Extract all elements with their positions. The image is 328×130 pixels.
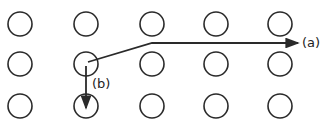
trajectories: (a)(b) <box>86 35 320 108</box>
atom-circle <box>8 52 32 76</box>
trajectory-b-label: (b) <box>92 76 110 91</box>
atom-circle <box>204 94 228 118</box>
atom-circle <box>268 94 292 118</box>
atom-circle <box>8 94 32 118</box>
atom-circle <box>204 12 228 36</box>
atom-circle <box>140 12 164 36</box>
atom-circle <box>268 52 292 76</box>
trajectory-a-arrow <box>88 43 298 62</box>
lattice-diagram: (a)(b) <box>0 0 328 130</box>
atom-circle <box>8 12 32 36</box>
atom-circle <box>140 94 164 118</box>
atom-circle <box>140 52 164 76</box>
atom-circle <box>204 52 228 76</box>
diagram-svg: (a)(b) <box>0 0 328 130</box>
atom-circle <box>74 12 98 36</box>
trajectory-a-label: (a) <box>302 35 320 50</box>
atom-circle <box>268 12 292 36</box>
lattice-circles <box>8 12 292 118</box>
